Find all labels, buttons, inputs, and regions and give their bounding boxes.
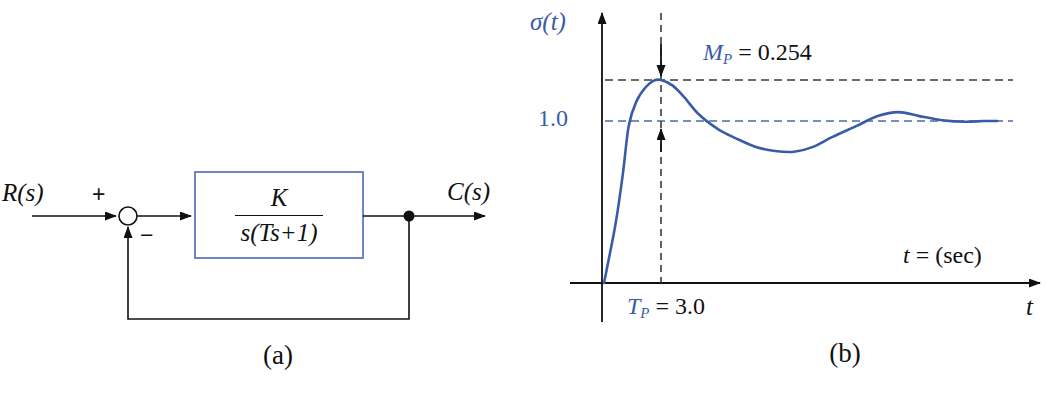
time-units-symbol: t: [903, 242, 910, 268]
peak-time-label: TP = 3.0: [627, 294, 705, 321]
time-units-text: = (sec): [910, 242, 982, 268]
overshoot-subscript: P: [723, 51, 732, 67]
output-signal-label: C(s): [447, 179, 490, 204]
unity-label: 1.0: [538, 106, 568, 130]
peak-time-subscript: P: [640, 305, 649, 321]
time-axis-label: t: [1026, 294, 1033, 319]
sigma-axis-label: σ(t): [530, 9, 566, 34]
transfer-function-numerator: K: [267, 184, 292, 215]
overshoot-label: MP = 0.254: [703, 40, 812, 67]
transfer-function-denominator: s(Ts+1): [235, 215, 322, 247]
control-system-figure: R(s) + − K s(Ts+1) C(s) (a) σ(t) MP = 0.…: [0, 0, 1047, 397]
peak-time-symbol: T: [627, 293, 640, 319]
summing-plus-sign: +: [92, 183, 105, 206]
transfer-function-math: K s(Ts+1): [195, 172, 363, 258]
figure-drawing: [0, 0, 1047, 397]
peak-time-value: = 3.0: [650, 293, 706, 319]
input-signal-label: R(s): [2, 180, 44, 205]
summing-junction: [119, 207, 137, 225]
panel-a-caption: (a): [233, 342, 323, 369]
time-units-label: t = (sec): [903, 243, 982, 267]
overshoot-value: = 0.254: [732, 39, 812, 65]
summing-minus-sign: −: [140, 224, 153, 247]
overshoot-symbol: M: [703, 39, 723, 65]
panel-b-caption: (b): [800, 340, 890, 367]
